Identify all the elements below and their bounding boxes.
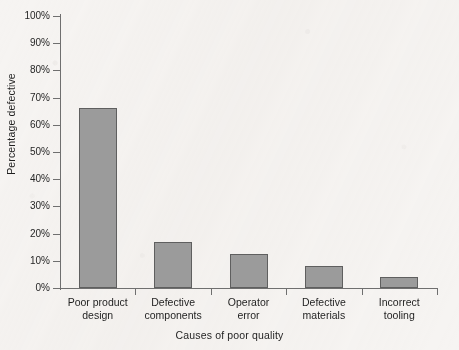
- y-axis-tick: [53, 179, 60, 180]
- x-axis-line: [59, 288, 438, 289]
- y-axis-tick: [53, 152, 60, 153]
- y-axis-tick-label: 60%: [4, 120, 50, 130]
- x-axis-category-label: Incorrecttooling: [349, 296, 449, 322]
- y-axis-tick: [53, 234, 60, 235]
- y-axis-tick-label: 40%: [4, 174, 50, 184]
- y-axis-tick: [53, 206, 60, 207]
- y-axis-tick-label: 80%: [4, 65, 50, 75]
- y-axis-tick: [53, 16, 60, 17]
- y-axis-tick-label: 0%: [4, 283, 50, 293]
- bar: [230, 254, 268, 288]
- y-axis-tick-label: 100%: [4, 11, 50, 21]
- y-axis-tick-label: 20%: [4, 229, 50, 239]
- bar: [305, 266, 343, 288]
- x-axis-tick: [211, 289, 212, 295]
- y-axis-tick: [53, 43, 60, 44]
- y-axis-tick: [53, 261, 60, 262]
- x-axis-category-label-line: tooling: [349, 309, 449, 322]
- y-axis-tick: [53, 288, 60, 289]
- y-axis-tick-label: 30%: [4, 201, 50, 211]
- y-axis-tick-label: 90%: [4, 38, 50, 48]
- x-axis-title: Causes of poor quality: [0, 329, 459, 341]
- y-axis-tick-label: 10%: [4, 256, 50, 266]
- y-axis-tick: [53, 98, 60, 99]
- bar-chart: Percentage defective 0%10%20%30%40%50%60…: [0, 0, 459, 350]
- x-axis-tick: [437, 289, 438, 295]
- bar: [79, 108, 117, 288]
- x-axis-tick: [362, 289, 363, 295]
- bar: [154, 242, 192, 288]
- y-axis-tick-label: 70%: [4, 93, 50, 103]
- plot-area: [60, 16, 437, 288]
- y-axis-tick-label: 50%: [4, 147, 50, 157]
- x-axis-category-label-line: Incorrect: [349, 296, 449, 309]
- x-axis-tick: [135, 289, 136, 295]
- x-axis-tick: [286, 289, 287, 295]
- y-axis-tick: [53, 70, 60, 71]
- y-axis-tick: [53, 125, 60, 126]
- bar: [380, 277, 418, 288]
